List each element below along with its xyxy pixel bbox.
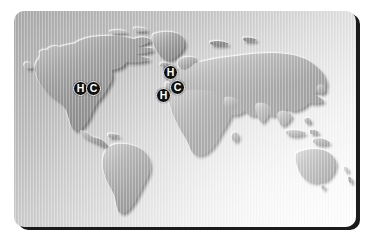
land-philippines [304, 118, 311, 124]
land-greenland [152, 32, 184, 60]
map-marker-h-europe-north[interactable]: H [163, 65, 178, 80]
map-marker-c-europe-central[interactable]: C [170, 80, 185, 95]
land-africa [169, 90, 234, 156]
land-central-america [80, 130, 109, 147]
land-group [24, 28, 352, 214]
land-new-guinea [313, 138, 330, 145]
land-south-america [103, 144, 151, 214]
land-tasmania [321, 185, 325, 190]
land-madagascar [232, 132, 240, 142]
world-map-card: HCHCH [14, 11, 356, 227]
land-caribbean [108, 134, 120, 138]
land-india [255, 103, 271, 123]
land-australia [296, 149, 336, 183]
land-southeast-asia [277, 111, 292, 126]
land-new-zealand [344, 167, 352, 183]
map-marker-h-europe-southwest[interactable]: H [156, 88, 171, 103]
land-indonesia [286, 130, 319, 137]
world-map-landmasses [14, 11, 356, 227]
map-marker-c-north-america[interactable]: C [86, 81, 101, 96]
screenshot-root: HCHCH [0, 0, 371, 241]
